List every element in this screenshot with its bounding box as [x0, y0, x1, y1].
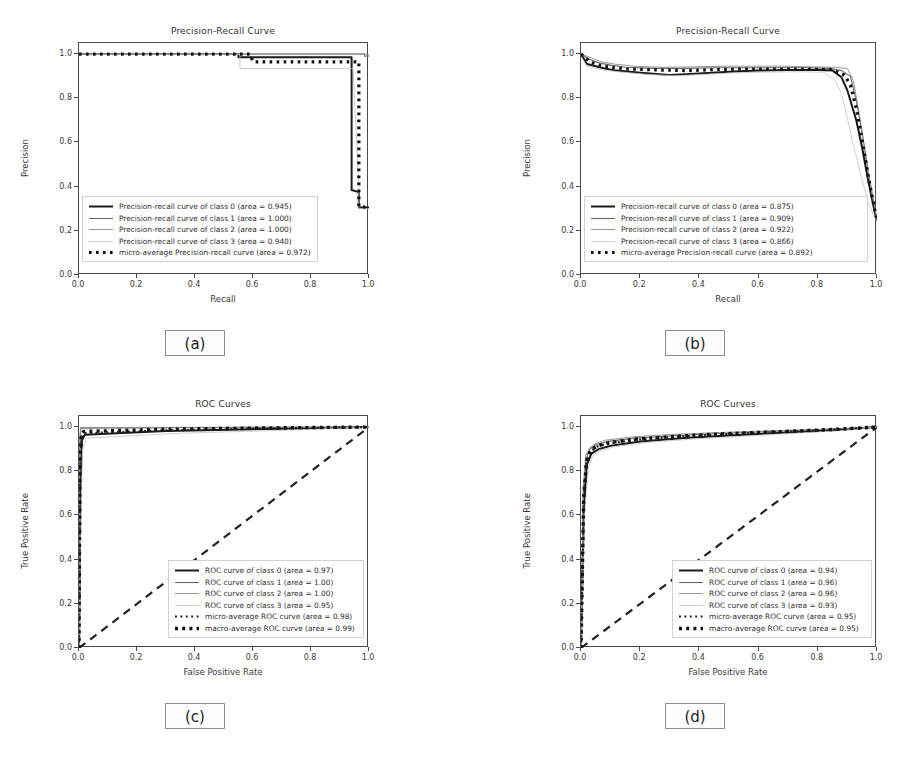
legend-key-solid-thick-icon [590, 201, 616, 212]
y-tick-label: 1.0 [40, 422, 72, 431]
y-tick-mark [74, 514, 78, 515]
series-line-4 [581, 427, 877, 648]
x-tick-mark [368, 647, 369, 651]
series-line-2 [581, 427, 877, 648]
series-line-0 [79, 54, 369, 208]
series-line-2 [79, 427, 369, 648]
x-tick-label: 0.0 [72, 280, 85, 289]
y-tick-mark [576, 603, 580, 604]
plot-area [580, 415, 876, 647]
curve-layer [581, 416, 877, 648]
y-tick-mark [74, 559, 78, 560]
y-tick-mark [74, 186, 78, 187]
y-tick-mark [576, 559, 580, 560]
legend-label: Precision-recall curve of class 2 (area … [621, 224, 794, 235]
legend-key-solid-medium-icon [678, 577, 704, 588]
panel-caption-d: (d) [665, 703, 725, 729]
legend-label: Precision-recall curve of class 2 (area … [119, 224, 292, 235]
chart-legend: ROC curve of class 0 (area = 0.94)ROC cu… [672, 560, 872, 638]
x-tick-label: 0.2 [130, 280, 143, 289]
y-tick-mark [74, 647, 78, 648]
legend-label: ROC curve of class 3 (area = 0.95) [205, 600, 333, 611]
x-tick-label: 1.0 [362, 280, 375, 289]
x-tick-mark [758, 647, 759, 651]
legend-item: Precision-recall curve of class 3 (area … [590, 236, 861, 248]
chart-title: Precision-Recall Curve [78, 26, 368, 36]
legend-item: ROC curve of class 0 (area = 0.94) [678, 565, 865, 577]
y-axis-label: True Positive Rate [20, 493, 30, 569]
y-tick-mark [74, 97, 78, 98]
x-tick-mark [580, 647, 581, 651]
plot-area [78, 42, 368, 274]
legend-item: ROC curve of class 2 (area = 1.00) [174, 588, 357, 600]
y-tick-label: 0.4 [542, 181, 574, 190]
series-line-4 [79, 427, 369, 648]
y-tick-label: 0.8 [542, 466, 574, 475]
x-tick-mark [252, 647, 253, 651]
legend-label: ROC curve of class 1 (area = 1.00) [205, 577, 333, 588]
y-tick-label: 0.4 [40, 181, 72, 190]
legend-key-solid-light-icon [590, 236, 616, 247]
x-tick-label: 0.2 [633, 653, 646, 662]
y-tick-label: 0.6 [40, 510, 72, 519]
y-tick-label: 1.0 [40, 49, 72, 58]
chart-legend: ROC curve of class 0 (area = 0.97)ROC cu… [168, 560, 364, 638]
y-tick-mark [74, 470, 78, 471]
legend-label: Precision-recall curve of class 0 (area … [621, 201, 794, 212]
curve-layer [79, 43, 369, 275]
chart-title: ROC Curves [580, 399, 876, 409]
legend-item: micro-average ROC curve (area = 0.98) [174, 611, 357, 623]
legend-label: ROC curve of class 0 (area = 0.97) [205, 565, 333, 576]
legend-label: macro-average ROC curve (area = 0.95) [709, 623, 859, 634]
panel-caption-a: (a) [165, 330, 225, 356]
y-tick-label: 0.2 [542, 598, 574, 607]
x-tick-label: 0.4 [188, 280, 201, 289]
x-axis-label: False Positive Rate [78, 667, 368, 677]
legend-key-solid-light-icon [678, 600, 704, 611]
series-line-0 [79, 427, 369, 648]
plot-area [580, 42, 876, 274]
x-tick-label: 1.0 [870, 653, 883, 662]
x-tick-label: 0.6 [751, 653, 764, 662]
x-tick-label: 0.8 [810, 653, 823, 662]
y-tick-mark [576, 274, 580, 275]
legend-item: ROC curve of class 3 (area = 0.95) [174, 600, 357, 612]
panel-d: ROC Curves0.00.20.40.60.81.00.00.20.40.6… [0, 0, 910, 773]
x-tick-label: 0.6 [751, 280, 764, 289]
legend-item: ROC curve of class 1 (area = 0.96) [678, 577, 865, 589]
y-tick-label: 1.0 [542, 422, 574, 431]
legend-item: Precision-recall curve of class 1 (area … [88, 213, 311, 225]
chart-title: Precision-Recall Curve [580, 26, 876, 36]
y-tick-mark [576, 230, 580, 231]
y-tick-mark [74, 426, 78, 427]
x-tick-mark [698, 274, 699, 278]
x-tick-mark [580, 274, 581, 278]
x-tick-mark [78, 647, 79, 651]
y-axis-label: True Positive Rate [522, 493, 532, 569]
legend-label: Precision-recall curve of class 3 (area … [621, 236, 794, 247]
panel-caption-b: (b) [665, 330, 725, 356]
x-tick-label: 0.4 [692, 653, 705, 662]
chart-title: ROC Curves [78, 399, 368, 409]
legend-label: ROC curve of class 2 (area = 1.00) [205, 588, 333, 599]
legend-label: Precision-recall curve of class 1 (area … [119, 213, 292, 224]
y-tick-label: 0.0 [40, 270, 72, 279]
x-tick-label: 0.2 [130, 653, 143, 662]
legend-key-solid-medium-icon [590, 213, 616, 224]
plot-area [78, 415, 368, 647]
x-tick-mark [136, 274, 137, 278]
x-tick-mark [194, 647, 195, 651]
x-tick-mark [78, 274, 79, 278]
legend-label: ROC curve of class 2 (area = 0.96) [709, 588, 837, 599]
x-tick-mark [368, 274, 369, 278]
legend-item: micro-average Precision-recall curve (ar… [88, 247, 311, 259]
series-line-2 [79, 54, 369, 55]
legend-key-solid-thick-icon [88, 201, 114, 212]
series-line-4 [581, 54, 877, 220]
y-tick-label: 0.6 [542, 510, 574, 519]
y-tick-mark [576, 470, 580, 471]
y-tick-label: 0.0 [542, 643, 574, 652]
x-tick-label: 0.0 [574, 280, 587, 289]
x-tick-mark [817, 647, 818, 651]
y-tick-mark [576, 186, 580, 187]
